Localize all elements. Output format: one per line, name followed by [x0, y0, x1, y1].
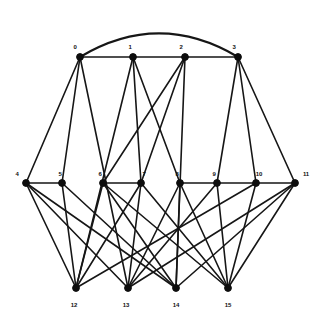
graph-node-label: 3 — [232, 44, 236, 50]
graph-figure: 0123456789101112131415 — [0, 0, 321, 328]
graph-node-label: 5 — [58, 171, 62, 177]
edge-layer — [26, 33, 295, 288]
graph-node-label: 9 — [212, 171, 216, 177]
graph-node-label: 2 — [179, 44, 183, 50]
graph-edge — [176, 183, 295, 288]
graph-node[interactable] — [214, 180, 221, 187]
graph-edge — [217, 183, 228, 288]
graph-edge — [228, 183, 256, 288]
graph-edge — [228, 183, 295, 288]
graph-edge — [76, 183, 141, 288]
graph-node[interactable] — [253, 180, 260, 187]
graph-node-label: 15 — [225, 302, 232, 308]
graph-node-label: 4 — [15, 171, 19, 177]
graph-node-label: 10 — [256, 171, 263, 177]
graph-node-label: 12 — [71, 302, 78, 308]
graph-node-label: 11 — [303, 171, 310, 177]
graph-edge-arc — [80, 33, 238, 57]
graph-node[interactable] — [235, 54, 242, 61]
graph-node[interactable] — [225, 285, 232, 292]
graph-canvas: 0123456789101112131415 — [0, 0, 321, 328]
graph-edge — [217, 57, 238, 183]
graph-node[interactable] — [100, 180, 107, 187]
graph-node[interactable] — [125, 285, 132, 292]
graph-node-label: 14 — [173, 302, 180, 308]
graph-node[interactable] — [173, 285, 180, 292]
graph-edge — [176, 183, 180, 288]
graph-node[interactable] — [73, 285, 80, 292]
graph-node[interactable] — [182, 54, 189, 61]
graph-node-label: 0 — [73, 44, 77, 50]
graph-node-label: 6 — [98, 171, 102, 177]
graph-node-label: 8 — [175, 171, 179, 177]
graph-edge — [141, 57, 185, 183]
graph-node[interactable] — [59, 180, 66, 187]
graph-node[interactable] — [130, 54, 137, 61]
graph-edge — [26, 183, 128, 288]
graph-node[interactable] — [23, 180, 30, 187]
graph-node[interactable] — [292, 180, 299, 187]
graph-node-label: 13 — [123, 302, 130, 308]
graph-edge — [62, 57, 80, 183]
graph-node[interactable] — [177, 180, 184, 187]
graph-edge — [26, 57, 80, 183]
graph-node[interactable] — [77, 54, 84, 61]
graph-node[interactable] — [138, 180, 145, 187]
graph-node-label: 1 — [128, 44, 132, 50]
